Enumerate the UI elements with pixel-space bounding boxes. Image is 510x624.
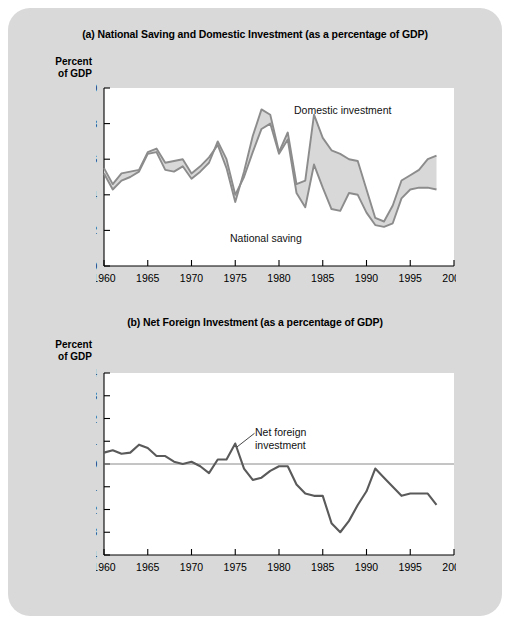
panel-a-y-tick-label: 20 [96, 82, 97, 94]
panel-b-x-tick-label: 1970 [180, 561, 204, 573]
panel-a-x-tick-label: 1980 [267, 272, 291, 283]
panel-b-y-tick-label: –2 [96, 504, 97, 516]
panel-a-y-tick-label: 10 [96, 260, 97, 272]
panel-b-y-tick-label: 3 [96, 390, 97, 402]
panel-b-x-tick-label: 2000 [442, 561, 456, 573]
panel-b-plot: –4–3–2–101234196019651970197519801985199… [96, 363, 456, 575]
panel-b-x-tick-label: 1975 [224, 561, 248, 573]
panel-b-y-tick-label: –3 [96, 526, 97, 538]
panel-b-x-tick-label: 1995 [399, 561, 423, 573]
label-national-saving: National saving [230, 232, 302, 245]
panel-b-x-tick-label: 1980 [267, 561, 291, 573]
panel-a-x-tick-label: 1990 [355, 272, 379, 283]
panel-a-axis-caption: Percent of GDP [20, 56, 92, 80]
panel-a-y-tick-label: 14 [96, 189, 97, 201]
panel-b-axis-caption: Percent of GDP [20, 339, 92, 363]
panel-b-y-tick-label: –1 [96, 481, 97, 493]
panel-a-x-tick-label: 1995 [399, 272, 423, 283]
panel-b-x-tick-label: 1990 [355, 561, 379, 573]
figure-panel: (a) National Saving and Domestic Investm… [8, 8, 502, 616]
label-domestic-investment: Domestic investment [294, 104, 391, 117]
panel-b-x-tick-label: 1965 [136, 561, 160, 573]
panel-a-x-tick-label: 2000 [442, 272, 456, 283]
panel-a-y-tick-label: 16 [96, 153, 97, 165]
panel-b-y-tick-label: 4 [96, 367, 97, 379]
panel-a-y-tick-label: 18 [96, 118, 97, 130]
panel-a-plot: 1012141618201960196519701975198019851990… [96, 78, 456, 283]
panel-b-y-tick-label: 1 [96, 435, 97, 447]
panel-b-y-tick-label: –4 [96, 549, 97, 561]
panel-b-y-tick-label: 2 [96, 413, 97, 425]
panel-a-x-tick-label: 1965 [136, 272, 160, 283]
panel-a-title: (a) National Saving and Domestic Investm… [8, 28, 502, 40]
panel-b-x-tick-label: 1960 [96, 561, 116, 573]
panel-a-y-tick-label: 12 [96, 224, 97, 236]
panel-a-x-tick-label: 1960 [96, 272, 116, 283]
panel-a-x-tick-label: 1970 [180, 272, 204, 283]
panel-a-x-tick-label: 1985 [311, 272, 335, 283]
panel-a-svg: 1012141618201960196519701975198019851990… [96, 78, 456, 283]
panel-b-y-tick-label: 0 [96, 458, 97, 470]
panel-b-svg: –4–3–2–101234196019651970197519801985199… [96, 363, 456, 575]
panel-a-x-tick-label: 1975 [224, 272, 248, 283]
panel-b-title: (b) Net Foreign Investment (as a percent… [8, 316, 502, 328]
panel-b-x-tick-label: 1985 [311, 561, 335, 573]
label-net-foreign-investment: Net foreign investment [255, 426, 306, 452]
